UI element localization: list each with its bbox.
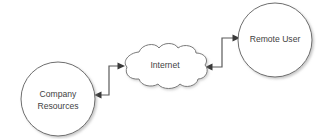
connector-internet-remoteuser — [205, 34, 240, 70]
node-company-resources[interactable]: Company Resources — [21, 62, 95, 136]
company-resources-circle[interactable] — [21, 62, 95, 136]
internet-label: Internet — [150, 60, 180, 70]
diagram-canvas: Company Resources Internet Remote User — [0, 0, 324, 139]
connector-internet-remoteuser-path — [210, 38, 235, 67]
network-diagram: Company Resources Internet Remote User — [0, 0, 324, 139]
connector-company-internet-path — [99, 66, 120, 95]
remote-user-label: Remote User — [250, 34, 301, 44]
arrowhead-into-internet-left — [118, 62, 126, 69]
node-remote-user[interactable]: Remote User — [238, 3, 312, 77]
connector-company-internet — [94, 62, 125, 98]
company-resources-label-line2: Resources — [37, 101, 78, 111]
node-internet[interactable]: Internet — [125, 44, 207, 89]
company-resources-label-line1: Company — [40, 89, 77, 99]
